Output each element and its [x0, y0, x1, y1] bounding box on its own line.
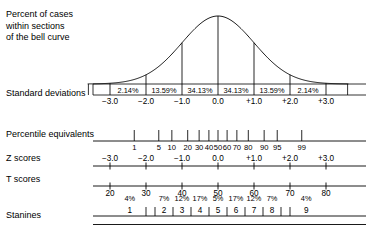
stanine-percent-9: 4%: [301, 194, 312, 203]
normal-curve-standard-scores-chart: Percent of cases within sections of the …: [0, 0, 373, 235]
t-score-label-80: 80: [321, 189, 330, 198]
standard-deviation-label-4: +1.0: [246, 97, 262, 106]
t-score-label-20: 20: [105, 189, 114, 198]
stanine-percent-7: 12%: [247, 194, 262, 203]
stanine-percent-8: 7%: [267, 194, 278, 203]
percentile-label-99: 99: [298, 143, 306, 152]
percentile-label-10: 10: [168, 143, 176, 152]
z-score-label-2: −1.0: [174, 154, 190, 163]
percentile-label-5: 5: [157, 143, 161, 152]
percentile-label-30: 30: [195, 143, 203, 152]
stanine-label-7: 7: [252, 206, 257, 215]
percentile-label-90: 90: [260, 143, 268, 152]
percentile-label-50: 50: [214, 143, 222, 152]
stanine-label-2: 2: [162, 206, 167, 215]
row-label-stanines: Stanines: [6, 210, 41, 220]
standard-deviation-label-2: −1.0: [174, 97, 190, 106]
band-percent-0: 2.14%: [118, 86, 139, 95]
stanine-label-6: 6: [234, 206, 239, 215]
standard-deviation-label-3: 0.0: [212, 97, 223, 106]
z-score-label-3: 0.0: [212, 154, 223, 163]
band-percent-3: 34.13%: [223, 86, 248, 95]
stanine-percent-4: 17%: [193, 194, 208, 203]
stanine-percent-5: 5%: [213, 194, 224, 203]
stanine-label-8: 8: [270, 206, 275, 215]
row-label-percentile-equivalents: Percentile equivalents: [6, 129, 94, 139]
row-label-z-scores: Z scores: [6, 153, 41, 163]
stanine-percent-1: 4%: [124, 194, 135, 203]
band-percent-2: 34.13%: [187, 86, 212, 95]
percentile-label-95: 95: [273, 143, 281, 152]
z-score-label-1: −2.0: [138, 154, 154, 163]
percentile-label-70: 70: [233, 143, 241, 152]
band-percent-1: 13.59%: [151, 86, 176, 95]
standard-deviation-label-1: −2.0: [138, 97, 154, 106]
stanine-label-5: 5: [216, 206, 221, 215]
stanine-percent-2: 7%: [159, 194, 170, 203]
stanine-percent-3: 12%: [175, 194, 190, 203]
standard-deviation-label-0: −3.0: [102, 97, 118, 106]
percentile-label-40: 40: [205, 143, 213, 152]
percentile-label-20: 20: [183, 143, 191, 152]
z-score-label-4: +1.0: [246, 154, 262, 163]
t-score-label-30: 30: [141, 189, 150, 198]
standard-deviation-label-6: +3.0: [318, 97, 334, 106]
z-score-label-5: +2.0: [282, 154, 298, 163]
t-score-label-70: 70: [285, 189, 294, 198]
stanine-label-4: 4: [198, 206, 203, 215]
stanine-percent-6: 17%: [229, 194, 244, 203]
band-percent-5: 2.14%: [298, 86, 319, 95]
standard-deviation-label-5: +2.0: [282, 97, 298, 106]
z-score-label-0: −3.0: [102, 154, 118, 163]
band-percent-4: 13.59%: [259, 86, 284, 95]
z-score-label-6: +3.0: [318, 154, 334, 163]
stanine-label-3: 3: [180, 206, 185, 215]
stanine-label-1: 1: [128, 206, 133, 215]
percentile-label-80: 80: [244, 143, 252, 152]
row-label-standard-deviations: Standard deviations: [6, 88, 86, 98]
row-label-t-scores: T scores: [6, 174, 40, 184]
stanine-label-9: 9: [304, 206, 309, 215]
percentile-label-1: 1: [132, 143, 136, 152]
percentile-label-60: 60: [223, 143, 231, 152]
